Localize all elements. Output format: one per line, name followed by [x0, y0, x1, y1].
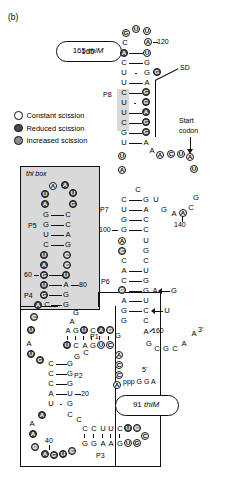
- nt-sd-G2: G: [142, 98, 150, 106]
- label-91-gene: thiM: [144, 400, 159, 409]
- nt-p5loop-A3: A: [41, 200, 49, 208]
- nt-p7R-A: A: [142, 206, 150, 214]
- nt-int-A1: A: [40, 261, 48, 269]
- nt-p3T-C1: C: [81, 425, 89, 433]
- nt-p6L-C1: C: [120, 257, 128, 265]
- nt-p7L-G1: G: [120, 216, 128, 224]
- construct-label-165-inner: 165 thiM: [56, 41, 120, 60]
- nt-p1B-C: C: [72, 342, 80, 350]
- nt-tail-C2: C: [171, 345, 179, 353]
- nt-p2R-C0: C: [82, 349, 90, 357]
- nt-p2L-C2: C: [47, 370, 55, 378]
- tick-80-bond: [71, 285, 79, 286]
- three-prime-label: 3': [198, 326, 203, 333]
- bp-p4-r1: [49, 275, 62, 276]
- bp-p4-r2: [49, 285, 62, 286]
- nt-p3T-C2: C: [90, 425, 98, 433]
- legend-swatch-constant: [14, 111, 23, 120]
- nt-p5loop-A1: A: [49, 182, 57, 190]
- nt-p7L-G2: G: [120, 226, 128, 234]
- helix-label-p2: P2: [74, 372, 83, 379]
- nt-p6R-C2: C: [142, 317, 150, 325]
- nt-p1T-A: A: [64, 327, 72, 335]
- nt-p6L-G2: G: [120, 307, 128, 315]
- tick-40: [49, 445, 50, 450]
- nt-p6R-C0: C: [142, 257, 150, 265]
- nt-loop-A120: A: [144, 38, 152, 46]
- outline-right-vert: [160, 292, 161, 466]
- legend-swatch-increased: [14, 136, 23, 145]
- nt-p8R-U: U: [143, 49, 151, 57]
- legend-label-increased: Increased scission: [27, 136, 88, 145]
- nt-p4R-A2: A: [68, 318, 76, 326]
- outline-bottom: [20, 466, 161, 467]
- nt-p1B-U: U: [63, 341, 71, 349]
- nt-p2R-U: U: [66, 390, 74, 398]
- nt-int-C1: C: [63, 251, 71, 259]
- nt-p6L-A1: A: [120, 267, 128, 275]
- nt-sc-A2: A: [186, 153, 194, 161]
- bp-p5-r3: [51, 235, 64, 236]
- bp-p8-r7: [129, 113, 142, 114]
- nt-p3Bo-G1: G: [81, 440, 89, 448]
- nt-int-C2: C: [63, 261, 71, 269]
- nt-p4L-C1: C: [43, 301, 51, 309]
- nt-p1-cont-G: G: [114, 332, 122, 340]
- bp-p7-r1: [129, 200, 142, 201]
- nt-p7L-U: U: [120, 206, 128, 214]
- nt-p1T-A2: A: [97, 326, 105, 334]
- nt-p2L-C1: C: [47, 360, 55, 368]
- outline-riser: [98, 292, 99, 307]
- nt-sd-G4: G: [142, 128, 150, 136]
- nt-p3T-G1: G: [133, 424, 141, 432]
- panel-label: (b): [8, 12, 18, 22]
- nt-p3T-U1: U: [99, 425, 107, 433]
- nt-left-C-b: C: [30, 313, 38, 321]
- nt-p1-cont-A: A: [115, 351, 123, 359]
- nt-tail-A2: A: [190, 330, 198, 338]
- sd-bracket: [155, 80, 156, 137]
- nt-p7R-C2: C: [142, 226, 150, 234]
- nt-p6L-A2: A: [120, 297, 128, 305]
- nt-p1T-U: U: [80, 326, 88, 334]
- nt-p4R-G3: G: [72, 309, 80, 317]
- nt-p1-cont-C2: C: [115, 371, 123, 379]
- nt-loop140-G2: G: [192, 194, 200, 202]
- legend-label-constant: Constant scission: [27, 111, 85, 120]
- p1-bond-1: [67, 336, 68, 340]
- nt-p5L-C: C: [42, 241, 50, 249]
- legend-swatch-reduced: [14, 124, 23, 133]
- start-codon-label-1: Start: [179, 117, 194, 124]
- nt-loop-U1: U: [132, 25, 140, 33]
- construct-label-91-inner: 91 thiM: [115, 395, 177, 414]
- bp-p7-r3: [129, 220, 142, 221]
- tick-140: [182, 217, 183, 222]
- p1-bond-2: [75, 336, 76, 340]
- nt-p6R-G1: G: [142, 277, 150, 285]
- nt-p3Bo-G4: G: [133, 439, 141, 447]
- nt-ins-U: U: [163, 307, 171, 315]
- nt-loop-U2: U: [143, 27, 151, 35]
- helix-label-p4: P4: [24, 292, 33, 299]
- nt-tail-G2: G: [162, 345, 170, 353]
- nt-ins-G: G: [170, 287, 178, 295]
- bp-p5-r4: [51, 245, 64, 246]
- nt-p3Bo-G3: G: [116, 440, 124, 448]
- nt-p8L-C1: C: [120, 59, 128, 67]
- nt-p7L-C-bulge: C: [118, 247, 126, 255]
- nt-p6L-G-mod: G: [118, 286, 126, 294]
- p3-bond-3: [102, 434, 103, 438]
- helix-label-p3: P3: [96, 452, 105, 459]
- nt-p7R-U-bulge: U: [142, 237, 150, 245]
- helix-label-p8: P8: [103, 91, 112, 98]
- p3-bond-5: [119, 434, 120, 438]
- position-label-100: 100: [99, 226, 111, 233]
- nt-p7R-G-bulge: G: [142, 247, 150, 255]
- bp-p8-r10: [129, 143, 142, 144]
- nt-p3T-C0: C: [75, 416, 83, 424]
- nt-left-U-b: U: [27, 326, 35, 334]
- nt-p3B-C1: C: [68, 447, 76, 455]
- position-label-120: 120: [157, 38, 169, 45]
- thi-box-region: [20, 166, 100, 310]
- nt-loop140-A2: A: [179, 209, 187, 217]
